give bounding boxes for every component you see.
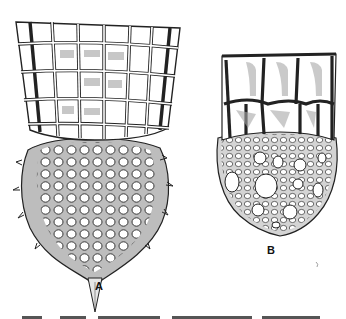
- specimen-drawings: [0, 0, 346, 319]
- panel-label-a: A: [95, 280, 103, 292]
- figure-plate: A B: [0, 0, 346, 319]
- truncated-caption: [0, 312, 346, 319]
- panel-label-b: B: [267, 244, 275, 256]
- specimen-b: [217, 54, 337, 236]
- specimen-a: [13, 22, 180, 312]
